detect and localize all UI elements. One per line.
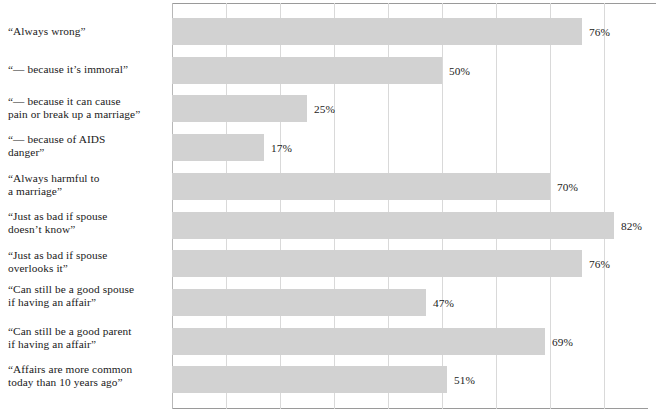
- plot-area: 76% 50% 25% 17% 70% 82% 76% 47%: [172, 3, 648, 409]
- bar-value-label: 76%: [589, 26, 610, 38]
- bar: [172, 250, 582, 277]
- category-label: “Just as bad if spouse doesn’t know”: [8, 210, 172, 236]
- horizontal-bar-chart: “Always wrong” “— because it’s immoral” …: [0, 0, 656, 411]
- bar-value-label: 76%: [589, 258, 610, 270]
- bar: [172, 328, 545, 355]
- bar-value-label: 70%: [557, 181, 578, 193]
- category-label: “Just as bad if spouse overlooks it”: [8, 249, 172, 275]
- bar-value-label: 25%: [314, 103, 335, 115]
- bar-value-label: 50%: [449, 65, 470, 77]
- category-label: “— because of AIDS danger”: [8, 133, 172, 159]
- plot-frame-top-border: [172, 3, 656, 4]
- bar: [172, 366, 447, 393]
- bar-value-label: 69%: [552, 336, 573, 348]
- category-label: “Can still be a good parent if having an…: [8, 325, 172, 351]
- bar: [172, 134, 264, 161]
- bar-value-label: 17%: [271, 142, 292, 154]
- category-label: “Can still be a good spouse if having an…: [8, 283, 172, 309]
- bar-value-label: 47%: [433, 297, 454, 309]
- bar: [172, 18, 582, 45]
- category-label: “Always wrong”: [8, 25, 172, 38]
- bar: [172, 173, 550, 200]
- category-label: “— because it can cause pain or break up…: [8, 95, 172, 121]
- category-label-column: “Always wrong” “— because it’s immoral” …: [0, 0, 172, 411]
- bar: [172, 95, 307, 122]
- bar: [172, 212, 614, 239]
- category-label: “Always harmful to a marriage”: [8, 172, 172, 198]
- category-label: “Affairs are more common today than 10 y…: [8, 363, 172, 389]
- category-label: “— because it’s immoral”: [8, 63, 172, 76]
- gridline-80: [604, 3, 605, 409]
- bar: [172, 57, 442, 84]
- bar-value-label: 51%: [454, 374, 475, 386]
- plot-frame-bottom-border: [172, 408, 648, 409]
- gridline-70: [550, 3, 551, 409]
- bar: [172, 289, 426, 316]
- bar-value-label: 82%: [621, 220, 642, 232]
